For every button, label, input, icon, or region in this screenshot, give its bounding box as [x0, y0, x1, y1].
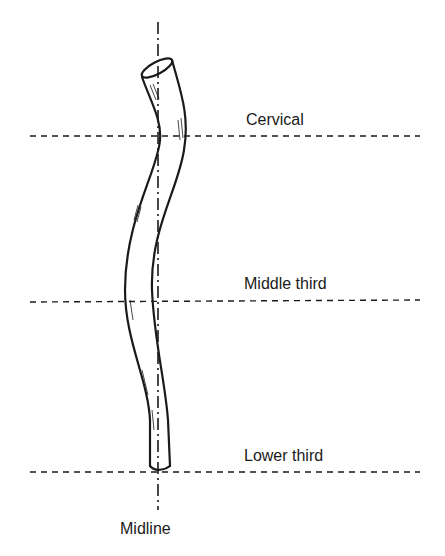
lower-third-label: Lower third [244, 447, 323, 465]
midline-label: Midline [120, 520, 171, 538]
cervical-label: Cervical [246, 111, 304, 129]
canal-diagram [0, 0, 445, 556]
root-canal-shape [125, 55, 186, 470]
middle-third-label: Middle third [244, 275, 327, 293]
middle-third-line [30, 300, 420, 302]
